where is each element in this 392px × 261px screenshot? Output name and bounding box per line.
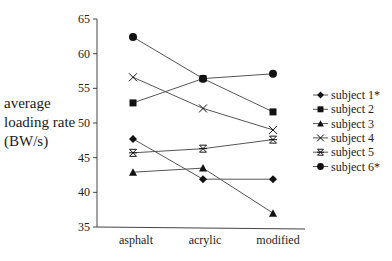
series-line <box>133 79 273 112</box>
circle-marker <box>129 33 137 41</box>
y-axis-label-line: loading rate <box>4 113 75 132</box>
diamond-marker <box>199 175 207 183</box>
x-marker <box>129 73 137 81</box>
legend-label: subject 4 <box>331 131 374 145</box>
diamond-marker <box>269 175 277 183</box>
chart-series <box>129 33 277 217</box>
legend-item: subject 1* <box>313 88 380 102</box>
x-marker <box>269 126 277 134</box>
legend-label: subject 5 <box>331 145 374 159</box>
series-line <box>133 77 273 130</box>
series-subject-3 <box>129 164 277 217</box>
asterisk-marker <box>129 149 137 156</box>
legend-item: subject 4 <box>313 131 374 145</box>
legend-item: subject 3 <box>313 117 374 131</box>
circle-marker <box>317 163 324 170</box>
triangle-marker <box>269 209 277 217</box>
legend-label: subject 2 <box>331 102 374 116</box>
legend-item: subject 2 <box>313 102 374 116</box>
square-marker <box>130 99 137 106</box>
y-tick-label: 45 <box>78 151 90 165</box>
legend-item: subject 5 <box>313 145 374 159</box>
circle-marker <box>269 70 277 78</box>
diamond-marker <box>129 135 137 143</box>
series-line <box>133 168 273 213</box>
series-subject-6 <box>129 33 277 83</box>
diamond-marker <box>317 92 324 99</box>
square-marker <box>318 106 324 112</box>
y-axis-label-line: average <box>4 94 75 113</box>
y-tick-label: 60 <box>78 47 90 61</box>
y-tick-label: 50 <box>78 116 90 130</box>
y-tick-label: 35 <box>78 220 90 234</box>
x-tick-label: modified <box>256 233 299 247</box>
y-axis-label-line: (BW/s) <box>4 132 75 151</box>
y-axis-label: average loading rate (BW/s) <box>4 94 75 151</box>
circle-marker <box>199 75 207 83</box>
x-tick-label: acrylic <box>189 233 222 247</box>
legend-label: subject 6* <box>331 160 380 174</box>
x-tick-label: asphalt <box>119 233 154 247</box>
asterisk-marker <box>317 149 324 155</box>
asterisk-marker <box>199 145 207 152</box>
series-line <box>133 37 273 79</box>
legend-label: subject 1* <box>331 88 380 102</box>
series-subject-5 <box>129 136 277 156</box>
legend-item: subject 6* <box>313 160 380 174</box>
asterisk-marker <box>269 136 277 143</box>
y-tick-label: 55 <box>78 81 90 95</box>
square-marker <box>270 108 277 115</box>
y-tick-label: 65 <box>78 12 90 26</box>
y-tick-label: 40 <box>78 185 90 199</box>
legend-label: subject 3 <box>331 117 374 131</box>
x-marker <box>199 104 207 112</box>
chart-legend: subject 1*subject 2subject 3subject 4sub… <box>313 88 380 174</box>
